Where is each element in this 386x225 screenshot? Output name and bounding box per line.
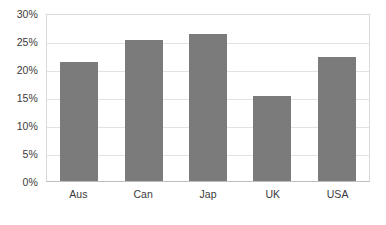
x-axis-tick-label: Can bbox=[111, 188, 176, 200]
bar-slot bbox=[176, 15, 240, 181]
x-axis-tick-label: UK bbox=[240, 188, 305, 200]
bar-can[interactable] bbox=[125, 40, 163, 181]
y-axis-tick-label: 25% bbox=[17, 36, 38, 48]
bar-slot bbox=[111, 15, 175, 181]
bar-chart: 30%25%20%15%10%5%0% AusCanJapUKUSA bbox=[0, 0, 386, 225]
bar-slot bbox=[47, 15, 111, 181]
y-axis-tick-label: 15% bbox=[17, 92, 38, 104]
x-axis-tick-label: Jap bbox=[176, 188, 241, 200]
plot-area bbox=[46, 14, 370, 182]
bar-aus[interactable] bbox=[60, 62, 98, 181]
y-axis-tick-label: 0% bbox=[23, 176, 38, 188]
y-axis-tick-label: 10% bbox=[17, 120, 38, 132]
bars-layer bbox=[47, 15, 369, 181]
y-axis-tick-label: 20% bbox=[17, 64, 38, 76]
bar-slot bbox=[240, 15, 304, 181]
y-axis-tick-label: 30% bbox=[17, 8, 38, 20]
bar-uk[interactable] bbox=[253, 96, 291, 181]
x-axis-tick-label: Aus bbox=[46, 188, 111, 200]
bar-jap[interactable] bbox=[189, 34, 227, 181]
bar-usa[interactable] bbox=[318, 57, 356, 181]
y-axis-tick-label: 5% bbox=[23, 148, 38, 160]
bar-slot bbox=[305, 15, 369, 181]
x-axis: AusCanJapUKUSA bbox=[46, 188, 370, 200]
y-axis: 30%25%20%15%10%5%0% bbox=[0, 0, 44, 225]
x-axis-tick-label: USA bbox=[305, 188, 370, 200]
